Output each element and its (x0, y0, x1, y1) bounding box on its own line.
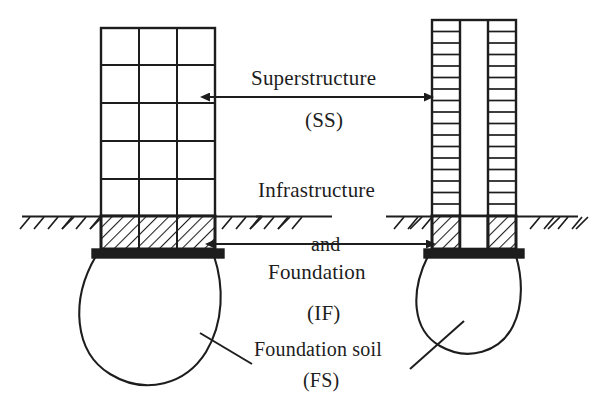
left-structure-group (79, 28, 224, 385)
left-footing-slab (92, 249, 224, 258)
left-basement-hatched (101, 216, 215, 249)
right-basement-hatched-left (432, 216, 460, 249)
foundation-soil-label: Foundation soil (254, 339, 382, 359)
infrastructure-abbr-label: (IF) (307, 303, 340, 324)
right-basement-hatched-right (488, 216, 516, 249)
left-superstructure-frame (101, 28, 215, 216)
foundation-soil-leader-right (410, 321, 464, 369)
foundation-label: Foundation (268, 262, 366, 283)
superstructure-label: Superstructure (251, 68, 376, 89)
right-basement-core-open (460, 216, 488, 249)
and-label: and (311, 234, 340, 254)
right-structure-group (416, 20, 524, 354)
infrastructure-label: Infrastructure (258, 180, 375, 201)
right-soil-bulb (416, 256, 521, 354)
right-footing-slab (424, 249, 524, 258)
left-soil-bulb (79, 256, 220, 385)
superstructure-abbr-label: (SS) (305, 110, 343, 131)
diagram-canvas: Superstructure (SS) Infrastructure and F… (0, 0, 598, 404)
right-superstructure-frame (432, 20, 516, 216)
foundation-soil-abbr-label: (FS) (303, 370, 339, 390)
